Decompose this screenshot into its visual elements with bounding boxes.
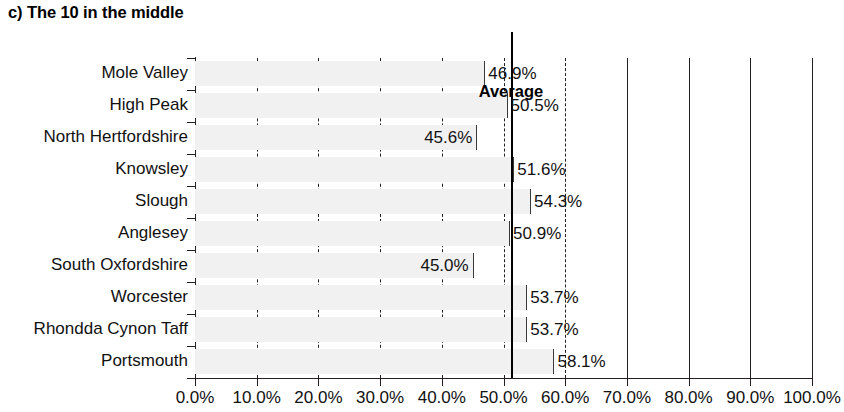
y-tick [187, 282, 195, 283]
bar-row[interactable]: 50.9% [195, 218, 812, 250]
x-tick-label: 0.0% [176, 388, 215, 408]
y-tick [187, 122, 195, 123]
x-tick-label: 80.0% [664, 388, 712, 408]
x-tick [195, 378, 196, 386]
x-tick [812, 378, 813, 386]
x-tick-label: 40.0% [418, 388, 466, 408]
bar-value-label: 58.1% [553, 352, 605, 372]
plot-area: 46.9%50.5%45.6%51.6%54.3%50.9%45.0%53.7%… [195, 58, 812, 378]
x-tick [565, 378, 566, 386]
x-tick-label: 20.0% [294, 388, 342, 408]
category-label: South Oxfordshire [0, 255, 188, 275]
y-tick [187, 250, 195, 251]
bar[interactable] [195, 93, 507, 118]
x-tick-label: 50.0% [479, 388, 527, 408]
x-tick-label: 90.0% [726, 388, 774, 408]
category-label: Portsmouth [0, 351, 188, 371]
y-tick [187, 346, 195, 347]
category-label: Worcester [0, 287, 188, 307]
bar[interactable] [195, 61, 484, 86]
bar-row[interactable]: 54.3% [195, 186, 812, 218]
category-label: Anglesey [0, 223, 188, 243]
bar-value-label: 46.9% [484, 64, 536, 84]
x-tick [257, 378, 258, 386]
bar-row[interactable]: 45.0% [195, 250, 812, 282]
y-tick [187, 58, 195, 59]
bar-row[interactable]: 53.7% [195, 314, 812, 346]
bar-value-label: 51.6% [513, 160, 565, 180]
bar-value-label: 53.7% [526, 288, 578, 308]
y-tick [187, 218, 195, 219]
x-tick-label: 10.0% [233, 388, 281, 408]
x-tick [442, 378, 443, 386]
bar-end-marker [476, 125, 477, 150]
chart-root: c) The 10 in the middle 46.9%50.5%45.6%5… [0, 0, 844, 412]
x-tick [380, 378, 381, 386]
x-tick [504, 378, 505, 386]
bar-value-label: 50.5% [507, 96, 559, 116]
x-tick [689, 378, 690, 386]
bar-value-label: 45.0% [420, 256, 472, 276]
y-tick [187, 90, 195, 91]
bar-value-label: 53.7% [526, 320, 578, 340]
category-label: Mole Valley [0, 63, 188, 83]
bar-value-label: 50.9% [509, 224, 561, 244]
bar-row[interactable]: 58.1% [195, 346, 812, 378]
category-label: High Peak [0, 95, 188, 115]
x-tick-label: 60.0% [541, 388, 589, 408]
y-tick [187, 378, 195, 379]
bar-value-label: 45.6% [424, 128, 476, 148]
category-label: Slough [0, 191, 188, 211]
bar[interactable] [195, 189, 530, 214]
bar-end-marker [473, 253, 474, 278]
y-tick [187, 314, 195, 315]
category-label: North Hertfordshire [0, 127, 188, 147]
bar[interactable] [195, 221, 509, 246]
x-tick [627, 378, 628, 386]
y-tick [187, 154, 195, 155]
gridline-100 [812, 58, 813, 378]
y-tick [187, 186, 195, 187]
x-tick-label: 70.0% [603, 388, 651, 408]
bar-row[interactable]: 53.7% [195, 282, 812, 314]
x-tick [318, 378, 319, 386]
bar[interactable] [195, 157, 513, 182]
category-label: Knowsley [0, 159, 188, 179]
bar-row[interactable]: 51.6% [195, 154, 812, 186]
x-tick-label: 30.0% [356, 388, 404, 408]
bar[interactable] [195, 317, 526, 342]
bar-value-label: 54.3% [530, 192, 582, 212]
chart-title: c) The 10 in the middle [8, 3, 184, 22]
bar-row[interactable]: 45.6% [195, 122, 812, 154]
x-tick [750, 378, 751, 386]
bar[interactable] [195, 349, 553, 374]
x-tick-label: 100.0% [783, 388, 841, 408]
bar[interactable] [195, 285, 526, 310]
category-label: Rhondda Cynon Taff [0, 319, 188, 339]
